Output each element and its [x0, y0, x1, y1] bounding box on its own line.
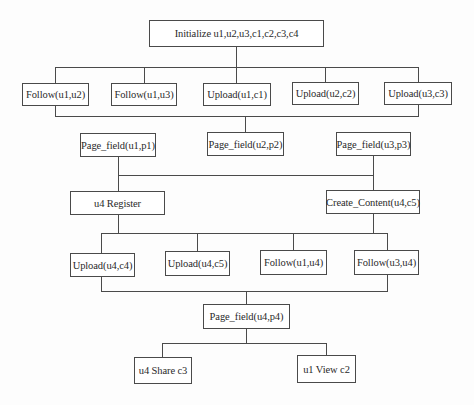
- connector-line: [373, 214, 374, 233]
- node-upload-u1-c1: Upload(u1,c1): [203, 83, 271, 106]
- connector-line: [418, 105, 419, 116]
- connector-line: [245, 116, 246, 132]
- connector-line: [418, 67, 419, 82]
- node-upload-u3-c3: Upload(u3,c3): [384, 82, 452, 105]
- connector-line: [373, 156, 374, 190]
- connector-line: [325, 67, 326, 83]
- node-page-field-u4-p4: Page_field(u4,p4): [203, 304, 290, 329]
- connector-line: [118, 215, 119, 233]
- connector-line: [246, 329, 247, 343]
- connector-line: [118, 175, 374, 176]
- connector-line: [162, 343, 163, 357]
- node-upload-u4-c4: Upload(u4,c4): [70, 253, 135, 277]
- node-upload-u2-c2: Upload(u2,c2): [292, 82, 359, 105]
- connector-line: [55, 116, 419, 117]
- connector-line: [55, 106, 56, 116]
- connector-line: [246, 291, 247, 304]
- connector-line: [236, 67, 237, 83]
- connector-line: [101, 291, 388, 292]
- connector-line: [387, 233, 388, 250]
- node-follow-u1-u2: Follow(u1,u2): [22, 83, 89, 106]
- node-create-content-u4-c5: Create_Content(u4,c5): [326, 190, 420, 214]
- connector-line: [118, 157, 119, 191]
- node-u4-register: u4 Register: [70, 191, 165, 215]
- node-follow-u3-u4: Follow(u3,u4): [354, 250, 419, 275]
- connector-line: [326, 343, 327, 355]
- connector-line: [101, 233, 102, 253]
- connector-line: [101, 233, 388, 234]
- node-page-field-u1-p1: Page_field(u1,p1): [80, 133, 156, 157]
- connector-line: [144, 67, 145, 83]
- connector-line: [236, 47, 237, 67]
- node-initialize: Initialize u1,u2,u3,c1,c2,c3,c4: [149, 20, 324, 47]
- node-u1-view-c2: u1 View c2: [297, 355, 356, 383]
- connector-line: [101, 277, 102, 291]
- connector-line: [293, 233, 294, 250]
- node-page-field-u2-p2: Page_field(u2,p2): [207, 132, 284, 156]
- connector-line: [387, 275, 388, 291]
- flow-diagram: Initialize u1,u2,u3,c1,c2,c3,c4 Follow(u…: [0, 0, 474, 405]
- connector-line: [197, 233, 198, 251]
- node-upload-u4-c5: Upload(u4,c5): [165, 251, 230, 276]
- connector-line: [162, 343, 327, 344]
- node-page-field-u3-p3: Page_field(u3,p3): [336, 132, 411, 156]
- node-follow-u1-u3: Follow(u1,u3): [111, 83, 177, 106]
- node-follow-u1-u4: Follow(u1,u4): [260, 250, 327, 275]
- connector-line: [55, 67, 56, 83]
- connector-line: [55, 67, 419, 68]
- node-u4-share-c3: u4 Share c3: [134, 357, 192, 384]
